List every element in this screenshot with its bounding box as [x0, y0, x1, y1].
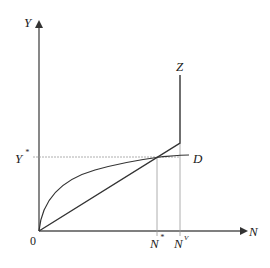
z-line-label: Z [176, 59, 184, 74]
origin-label: 0 [30, 234, 36, 248]
diagram-canvas: Y N 0 Y * N * N V D Z [0, 0, 270, 268]
z-schedule-line [39, 75, 180, 231]
y-star-label: Y [15, 151, 24, 166]
x-axis-label: N [248, 224, 259, 239]
n-star-superscript: * [160, 233, 164, 242]
n-v-superscript: V [184, 234, 189, 242]
n-v-label: N [173, 236, 184, 251]
d-curve-label: D [192, 151, 203, 166]
n-star-label: N [149, 236, 160, 251]
y-star-superscript: * [25, 148, 29, 157]
d-curve [39, 155, 189, 231]
y-axis-label: Y [24, 15, 33, 30]
diagram-svg: Y N 0 Y * N * N V D Z [0, 0, 270, 268]
